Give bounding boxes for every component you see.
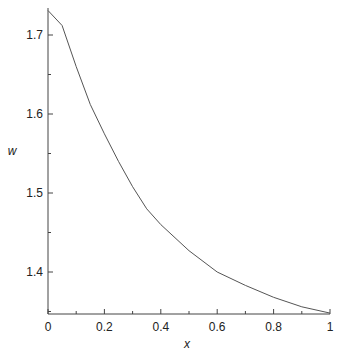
x-tick-label: 1 xyxy=(327,320,334,334)
data-line xyxy=(48,11,330,314)
y-tick-label: 1.5 xyxy=(26,186,43,200)
x-tick-label: 0 xyxy=(45,320,52,334)
y-tick-label: 1.4 xyxy=(26,265,43,279)
x-tick-label: 0.4 xyxy=(152,320,169,334)
line-chart: 00.20.40.60.811.41.51.61.7 x w xyxy=(0,0,338,355)
x-tick-label: 0.2 xyxy=(96,320,113,334)
y-axis-label: w xyxy=(8,144,18,158)
x-tick-label: 0.6 xyxy=(209,320,226,334)
y-tick-label: 1.7 xyxy=(26,28,43,42)
x-axis-label: x xyxy=(183,337,191,351)
y-tick-label: 1.6 xyxy=(26,107,43,121)
x-tick-label: 0.8 xyxy=(265,320,282,334)
